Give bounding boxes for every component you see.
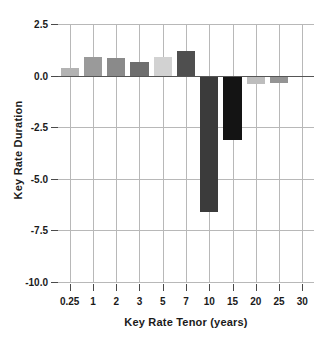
x-gridline <box>70 24 71 282</box>
x-tick-label: 2 <box>113 296 119 307</box>
x-tick-mark <box>256 284 257 291</box>
x-tick-label: 20 <box>250 296 261 307</box>
x-tick-mark <box>279 284 280 291</box>
bar[interactable] <box>107 58 125 76</box>
x-tick-mark <box>163 284 164 291</box>
y-tick-mark <box>51 179 58 180</box>
x-tick-label: 25 <box>274 296 285 307</box>
y-tick-label: -7.5 <box>2 225 48 236</box>
y-axis-title: Key Rate Duration <box>12 60 24 240</box>
zero-reference-line <box>52 76 314 77</box>
x-tick-mark <box>233 284 234 291</box>
bar[interactable] <box>84 57 102 76</box>
x-tick-mark <box>209 284 210 291</box>
y-tick-mark <box>51 127 58 128</box>
y-tick-label: -10.0 <box>2 277 48 288</box>
x-tick-mark <box>186 284 187 291</box>
bar[interactable] <box>154 57 172 76</box>
x-tick-label: 1 <box>90 296 96 307</box>
y-tick-mark <box>51 282 58 283</box>
bar[interactable] <box>270 76 288 83</box>
x-tick-mark <box>70 284 71 291</box>
bar[interactable] <box>247 76 265 84</box>
y-tick-mark <box>51 24 58 25</box>
x-gridline <box>256 24 257 282</box>
x-tick-label: 15 <box>227 296 238 307</box>
x-tick-mark <box>116 284 117 291</box>
bar[interactable] <box>61 68 79 75</box>
x-tick-label: 3 <box>137 296 143 307</box>
bar[interactable] <box>177 51 195 76</box>
y-tick-label: -2.5 <box>2 122 48 133</box>
x-tick-label: 0.25 <box>60 296 79 307</box>
x-tick-label: 30 <box>297 296 308 307</box>
x-axis-title: Key Rate Tenor (years) <box>58 316 314 328</box>
bar-chart-figure: Key Rate Duration Key Rate Tenor (years)… <box>0 0 325 342</box>
x-gridline <box>233 24 234 282</box>
x-gridline <box>279 24 280 282</box>
x-tick-mark <box>93 284 94 291</box>
y-tick-label: -5.0 <box>2 173 48 184</box>
y-tick-label: 2.5 <box>2 19 48 30</box>
bar[interactable] <box>200 76 218 212</box>
x-tick-label: 7 <box>183 296 189 307</box>
x-gridline <box>302 24 303 282</box>
y-gridline <box>58 282 314 283</box>
y-tick-mark <box>51 230 58 231</box>
x-tick-label: 10 <box>204 296 215 307</box>
x-tick-mark <box>139 284 140 291</box>
bar[interactable] <box>223 76 241 140</box>
plot-area <box>58 24 314 282</box>
bar[interactable] <box>130 62 148 75</box>
x-tick-label: 5 <box>160 296 166 307</box>
x-tick-mark <box>302 284 303 291</box>
y-tick-label: 0.0 <box>2 70 48 81</box>
